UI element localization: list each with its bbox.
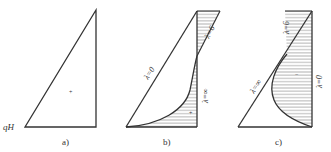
caption-c: c) (275, 137, 282, 147)
label-lambda-0: λ=0 (315, 75, 324, 89)
label-lambda-0: λ=0 (142, 65, 157, 82)
triangle-load-diagram (25, 10, 96, 127)
moment-diagram-figure: qH + a) λ=0 λ=6 λ=∞ + b) λ (0, 0, 331, 152)
label-lambda-inf: λ=∞ (201, 88, 210, 104)
caption-b: b) (163, 137, 171, 147)
panel-a: qH + a) (3, 10, 96, 147)
hatched-region (272, 11, 312, 127)
panel-c: λ=∞ λ=6 λ=0 − c) (238, 11, 324, 147)
qh-label: qH (3, 122, 15, 132)
plus-sign: + (69, 89, 73, 95)
panel-b: λ=0 λ=6 λ=∞ + b) (126, 11, 220, 147)
caption-a: a) (62, 137, 69, 147)
label-lambda-inf: λ=∞ (248, 78, 264, 96)
hatched-region-lower (126, 56, 197, 127)
label-lambda-6: λ=6 (282, 21, 291, 35)
